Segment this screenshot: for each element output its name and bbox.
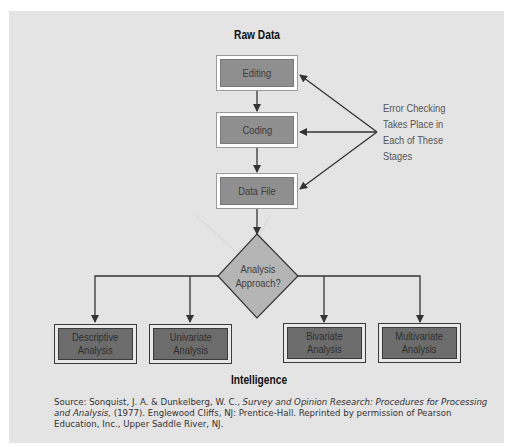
note-line: Error Checking: [383, 100, 445, 116]
stage-label: Coding: [242, 124, 272, 136]
stage-data-file: Data File: [216, 173, 298, 209]
raw-data-label: Raw Data: [232, 28, 283, 42]
decision-label: Analysis Approach?: [227, 262, 288, 290]
decision-line: Analysis: [227, 262, 288, 276]
stage-label: Data File: [238, 185, 275, 197]
note-line: Each of These: [383, 132, 445, 148]
decision-line: Approach?: [227, 276, 288, 290]
outcome-descriptive: DescriptiveAnalysis: [54, 324, 137, 364]
intelligence-label: Intelligence: [229, 373, 289, 387]
source-citation: Source: Sonquist, J. A. & Dunkelberg, W.…: [54, 397, 494, 430]
outcome-line: Univariate: [169, 331, 211, 344]
outcome-multivariate: MultivariateAnalysis: [378, 323, 461, 363]
note-line: Takes Place in: [383, 116, 445, 132]
note-line: Stages: [383, 148, 445, 164]
outcome-line: Descriptive: [72, 331, 118, 344]
outcome-bivariate: BivariateAnalysis: [283, 323, 366, 363]
stage-coding: Coding: [216, 112, 298, 148]
outcome-line: Bivariate: [306, 330, 342, 343]
outcome-line: Analysis: [396, 343, 444, 356]
source-prefix: Source: Sonquist, J. A. & Dunkelberg, W.…: [54, 397, 243, 407]
outcome-line: Multivariate: [396, 330, 444, 343]
outcome-line: Analysis: [72, 344, 118, 357]
outcome-univariate: UnivariateAnalysis: [149, 324, 232, 364]
error-checking-note: Error Checking Takes Place in Each of Th…: [383, 100, 445, 164]
stage-editing: Editing: [216, 55, 298, 91]
outcome-line: Analysis: [306, 343, 342, 356]
stage-label: Editing: [243, 67, 272, 79]
outcome-line: Analysis: [169, 344, 211, 357]
source-suffix: (1977). Englewood Cliffs, NJ: Prentice-H…: [54, 408, 451, 429]
